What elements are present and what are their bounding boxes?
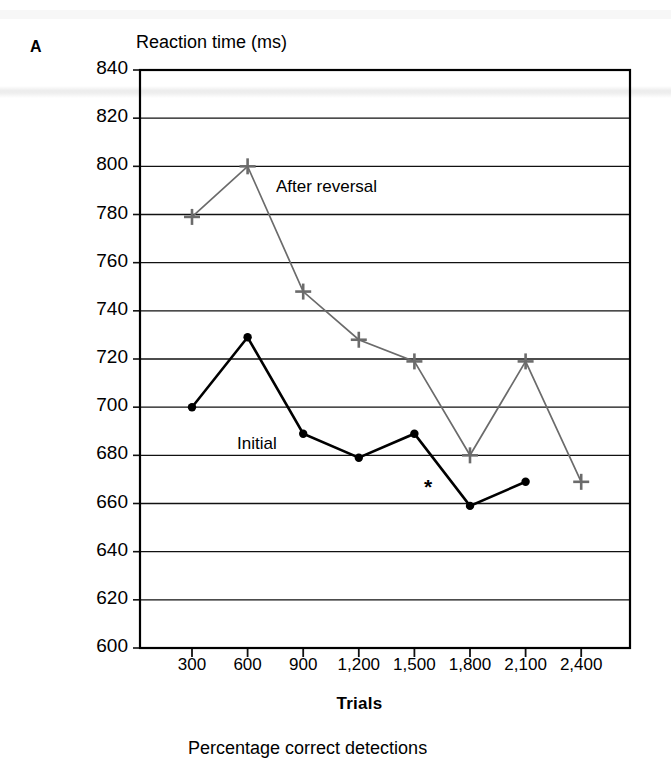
next-panel-caption: Percentage correct detections bbox=[188, 738, 427, 760]
y-tick-label: 660 bbox=[72, 491, 128, 513]
y-tick-label: 680 bbox=[72, 442, 128, 464]
data-point-marker-circle bbox=[521, 478, 529, 486]
series-label-after-reversal: After reversal bbox=[276, 177, 377, 197]
y-tick-label: 720 bbox=[72, 346, 128, 368]
data-point-marker-circle bbox=[243, 333, 251, 341]
data-point-marker-circle bbox=[299, 430, 307, 438]
y-tick-label: 760 bbox=[72, 250, 128, 272]
gridline-group bbox=[140, 70, 630, 648]
y-tick-label: 800 bbox=[72, 153, 128, 175]
data-point-marker-plus bbox=[406, 353, 422, 369]
x-axis-title: Trials bbox=[0, 694, 671, 714]
series-label-initial: Initial bbox=[237, 434, 277, 454]
x-axis-title-text: Trials bbox=[336, 694, 382, 714]
data-point-marker-circle bbox=[188, 403, 196, 411]
data-point-marker-plus bbox=[462, 447, 478, 463]
significance-asterisk: * bbox=[424, 476, 432, 497]
y-tick-label: 640 bbox=[72, 539, 128, 561]
data-point-marker-plus bbox=[573, 474, 589, 490]
y-tick-label: 820 bbox=[72, 105, 128, 127]
data-point-marker-plus bbox=[518, 353, 534, 369]
series-line-initial bbox=[192, 337, 526, 506]
y-tick-label: 840 bbox=[72, 57, 128, 79]
figure-panel-a: A Reaction time (ms) 8408208007807607407… bbox=[0, 0, 671, 760]
data-point-marker-circle bbox=[410, 430, 418, 438]
y-tick-label: 700 bbox=[72, 394, 128, 416]
y-tick-label: 740 bbox=[72, 298, 128, 320]
series-group bbox=[184, 158, 589, 510]
y-tick-label: 600 bbox=[72, 635, 128, 657]
data-point-marker-circle bbox=[355, 454, 363, 462]
data-point-marker-circle bbox=[466, 502, 474, 510]
y-tick-label: 780 bbox=[72, 202, 128, 224]
x-tick-label: 2,400 bbox=[546, 655, 616, 675]
y-tick-label: 620 bbox=[72, 587, 128, 609]
